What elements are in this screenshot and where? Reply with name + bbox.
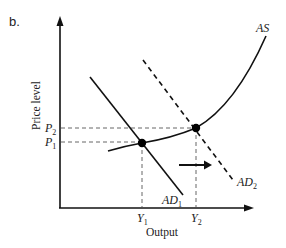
- panel-label: b.: [9, 14, 20, 29]
- y2-tick-label: Y2: [191, 211, 202, 227]
- x-axis-arrow-icon: [244, 205, 254, 212]
- equilibrium-point-e1: [138, 139, 146, 147]
- y-axis-title: Price level: [30, 81, 42, 130]
- axes: [57, 16, 255, 212]
- p1-tick-label: P1: [44, 135, 56, 151]
- ad1-curve: [90, 77, 183, 195]
- shift-right-arrow-icon: [179, 161, 212, 170]
- ad-as-chart: b. AS AD1 AD2 P2 P1 Y1 Y2 Output Price l…: [0, 0, 286, 248]
- ad1-label: AD1: [161, 193, 182, 209]
- ad2-label: AD2: [236, 175, 257, 191]
- y1-tick-label: Y1: [137, 211, 148, 227]
- x-axis-title: Output: [146, 226, 179, 239]
- as-curve: [108, 36, 266, 151]
- y-axis-arrow-icon: [57, 16, 64, 26]
- equilibrium-point-e2: [192, 124, 200, 132]
- as-label: AS: [255, 21, 269, 35]
